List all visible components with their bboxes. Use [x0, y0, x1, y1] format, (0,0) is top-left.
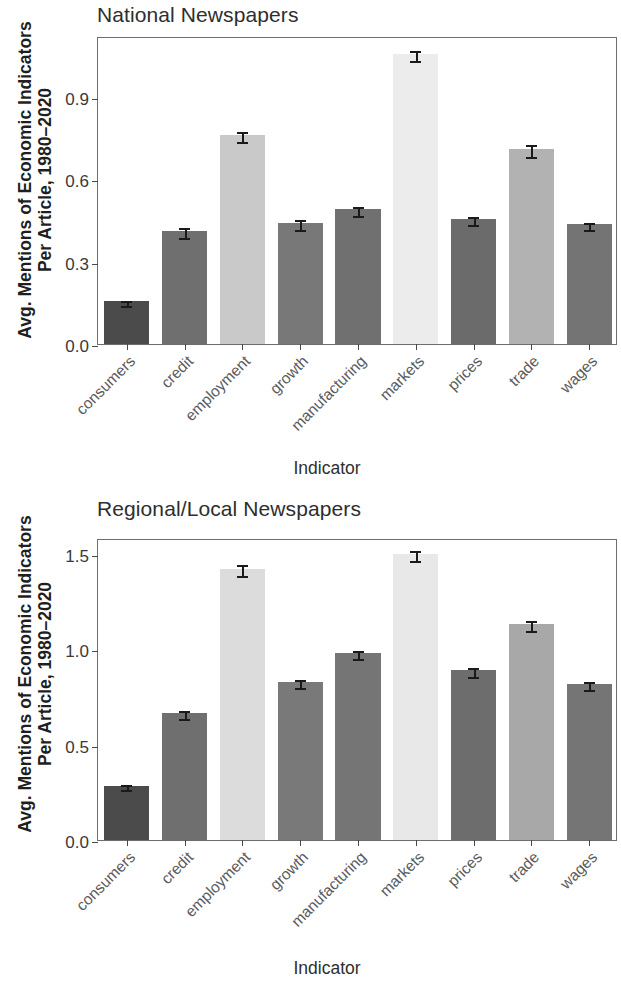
x-axis-tick	[358, 840, 359, 846]
error-bar-cap-prices-upper	[468, 217, 479, 219]
x-axis-tick	[127, 840, 128, 846]
error-bar-cap-prices-upper	[468, 668, 479, 670]
y-axis-tick-label: 0.0	[65, 834, 89, 851]
x-axis-tick	[531, 840, 532, 846]
error-bar-cap-manufacturing-lower	[353, 659, 364, 661]
error-bar-cap-trade-upper	[526, 145, 537, 147]
error-bar-cap-markets-upper	[410, 551, 421, 553]
y-axis-tick-label: 0.6	[65, 173, 89, 190]
bar-trade[interactable]	[509, 149, 554, 344]
error-bar-cap-employment-upper	[237, 132, 248, 134]
error-bar-cap-consumers-lower	[121, 306, 132, 308]
error-bar-cap-prices-lower	[468, 225, 479, 227]
x-axis-tick	[185, 344, 186, 350]
error-bar-cap-trade-lower	[526, 631, 537, 633]
x-axis-tick	[589, 840, 590, 846]
error-bar-cap-manufacturing-upper	[353, 651, 364, 653]
error-bar-cap-markets-upper	[410, 51, 421, 53]
y-axis-tick-label: 0.5	[65, 738, 89, 755]
y-axis-tick	[92, 556, 98, 557]
x-axis-tick	[242, 344, 243, 350]
y-axis-tick	[92, 264, 98, 265]
y-axis-title-regional: Avg. Mentions of Economic Indicators Per…	[15, 504, 55, 844]
error-bar-cap-credit-lower	[179, 719, 190, 721]
bar-growth[interactable]	[278, 682, 323, 840]
bar-credit[interactable]	[162, 231, 207, 344]
y-axis-tick	[92, 181, 98, 182]
error-bar-cap-markets-lower	[410, 561, 421, 563]
y-axis-tick-label: 0.3	[65, 255, 89, 272]
error-bar-cap-employment-lower	[237, 576, 248, 578]
bar-wages[interactable]	[567, 224, 612, 344]
x-axis-tick	[416, 840, 417, 846]
bar-credit[interactable]	[162, 713, 207, 840]
bar-trade[interactable]	[509, 624, 554, 840]
plot-area-national: 0.00.30.60.9consumerscreditemploymentgro…	[97, 37, 617, 345]
bar-employment[interactable]	[220, 135, 265, 344]
x-axis-tick	[589, 344, 590, 350]
y-axis-title-national: Avg. Mentions of Economic Indicators Per…	[15, 10, 55, 350]
error-bar-cap-wages-lower	[584, 690, 595, 692]
y-axis-tick-label: 1.5	[65, 548, 89, 565]
y-axis-title-line1: Avg. Mentions of Economic Indicators	[15, 10, 35, 350]
error-bar-cap-prices-lower	[468, 677, 479, 679]
x-axis-title-national: Indicator	[28, 458, 621, 478]
error-bar-cap-employment-upper	[237, 565, 248, 567]
error-bar-cap-credit-upper	[179, 228, 190, 230]
error-bar-cap-growth-lower	[295, 688, 306, 690]
y-axis-title-line2: Per Article, 1980–2020	[35, 10, 55, 350]
y-axis-tick	[92, 747, 98, 748]
error-bar-cap-wages-lower	[584, 230, 595, 232]
error-bar-cap-credit-lower	[179, 238, 190, 240]
error-bar-cap-consumers-lower	[121, 790, 132, 792]
chart-title-national: National Newspapers	[97, 0, 567, 30]
plot-area-regional: 0.00.51.01.5consumerscreditemploymentgro…	[97, 539, 617, 841]
error-bar-cap-credit-upper	[179, 711, 190, 713]
error-bar-cap-markets-lower	[410, 61, 421, 63]
bar-consumers[interactable]	[104, 786, 149, 840]
error-bar-cap-manufacturing-lower	[353, 216, 364, 218]
bar-prices[interactable]	[451, 219, 496, 344]
bar-consumers[interactable]	[104, 301, 149, 344]
error-bar-cap-growth-upper	[295, 220, 306, 222]
bar-growth[interactable]	[278, 223, 323, 344]
y-axis-tick	[92, 842, 98, 843]
error-bar-cap-consumers-upper	[121, 301, 132, 303]
error-bar-cap-trade-upper	[526, 621, 537, 623]
x-axis-tick	[416, 344, 417, 350]
chart-title-regional: Regional/Local Newspapers	[97, 494, 567, 524]
error-bar-cap-growth-lower	[295, 230, 306, 232]
x-axis-title-regional: Indicator	[28, 958, 621, 978]
bar-markets[interactable]	[393, 554, 438, 840]
error-bar-cap-wages-upper	[584, 682, 595, 684]
bar-employment[interactable]	[220, 569, 265, 841]
y-axis-title-line2: Per Article, 1980–2020	[35, 504, 55, 844]
error-bar-cap-wages-upper	[584, 223, 595, 225]
error-bar-cap-consumers-upper	[121, 785, 132, 787]
bar-wages[interactable]	[567, 684, 612, 840]
panel-national-newspapers: National Newspapers Avg. Mentions of Eco…	[0, 0, 598, 493]
x-axis-tick	[300, 840, 301, 846]
x-axis-tick	[474, 344, 475, 350]
bar-prices[interactable]	[451, 670, 496, 840]
bar-manufacturing[interactable]	[335, 209, 380, 344]
x-axis-tick	[358, 344, 359, 350]
error-bar-cap-trade-lower	[526, 157, 537, 159]
error-bar-cap-growth-upper	[295, 680, 306, 682]
x-axis-tick	[127, 344, 128, 350]
bar-markets[interactable]	[393, 54, 438, 344]
y-axis-tick-label: 1.0	[65, 643, 89, 660]
y-axis-tick-label: 0.0	[65, 338, 89, 355]
x-axis-tick	[531, 344, 532, 350]
y-axis-tick-label: 0.9	[65, 90, 89, 107]
x-axis-tick	[185, 840, 186, 846]
bar-manufacturing[interactable]	[335, 653, 380, 840]
y-axis-title-line1: Avg. Mentions of Economic Indicators	[15, 504, 35, 844]
error-bar-cap-employment-lower	[237, 142, 248, 144]
y-axis-tick	[92, 99, 98, 100]
y-axis-tick	[92, 346, 98, 347]
x-axis-tick	[474, 840, 475, 846]
y-axis-tick	[92, 651, 98, 652]
panel-regional-local-newspapers: Regional/Local Newspapers Avg. Mentions …	[0, 494, 598, 987]
